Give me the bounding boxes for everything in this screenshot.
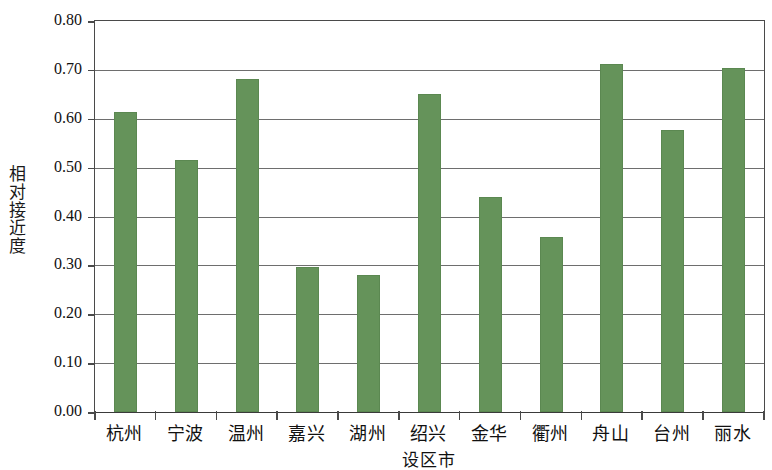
y-axis-tick-label: 0.40 <box>54 207 82 225</box>
x-axis-tick-label: 杭州 <box>94 419 155 449</box>
x-axis-tick-label: 宁波 <box>155 419 216 449</box>
bar <box>479 197 502 412</box>
bar-slot <box>460 21 521 412</box>
x-axis-tick-label: 嘉兴 <box>276 419 337 449</box>
bar-slot <box>521 21 582 412</box>
bar-slot <box>217 21 278 412</box>
y-axis-tick-mark <box>88 119 95 121</box>
y-axis-tick-mark <box>88 70 95 72</box>
bar-slot <box>642 21 703 412</box>
x-axis-tick-label: 舟山 <box>581 419 642 449</box>
bar-slot <box>95 21 156 412</box>
bar-chart: 相对接近度 0.000.100.200.300.400.500.600.700.… <box>0 0 772 470</box>
bar-slot <box>156 21 217 412</box>
y-axis-title: 相对接近度 <box>2 0 30 420</box>
bar <box>661 130 684 412</box>
x-axis-tick-labels: 杭州宁波温州嘉兴湖州绍兴金华衢州舟山台州丽水 <box>94 419 763 449</box>
x-axis-tick-label: 衢州 <box>520 419 581 449</box>
x-axis-tick-label: 金华 <box>459 419 520 449</box>
bar-slot <box>582 21 643 412</box>
bar <box>236 79 259 412</box>
x-axis-tick-label: 湖州 <box>337 419 398 449</box>
bar <box>722 68 745 412</box>
y-axis-tick-mark <box>88 314 95 316</box>
x-axis-tick-label: 温州 <box>216 419 277 449</box>
bar-slot <box>338 21 399 412</box>
x-axis-tick-label: 绍兴 <box>398 419 459 449</box>
y-axis-tick-mark <box>88 21 95 23</box>
x-axis-tick-mark <box>763 411 765 420</box>
bar <box>418 94 441 412</box>
x-axis-tick-label: 台州 <box>641 419 702 449</box>
y-axis-tick-label: 0.20 <box>54 304 82 322</box>
y-axis-tick-labels: 0.000.100.200.300.400.500.600.700.80 <box>28 0 88 420</box>
bars-layer <box>95 21 764 412</box>
x-axis-title: 设区市 <box>94 446 763 470</box>
y-axis-tick-label: 0.30 <box>54 255 82 273</box>
y-axis-tick-mark <box>88 217 95 219</box>
bar <box>357 275 380 412</box>
bar <box>600 64 623 412</box>
y-axis-tick-label: 0.60 <box>54 109 82 127</box>
bar <box>114 112 137 412</box>
plot-area <box>94 20 765 413</box>
x-axis-tick-label: 丽水 <box>702 419 763 449</box>
bar <box>296 267 319 412</box>
y-axis-tick-label: 0.00 <box>54 402 82 420</box>
y-axis-tick-label: 0.50 <box>54 158 82 176</box>
y-axis-tick-mark <box>88 168 95 170</box>
bar-slot <box>277 21 338 412</box>
bar <box>540 237 563 412</box>
y-axis-tick-label: 0.10 <box>54 353 82 371</box>
bar-slot <box>703 21 764 412</box>
y-axis-tick-mark <box>88 363 95 365</box>
y-axis-tick-label: 0.70 <box>54 60 82 78</box>
bar-slot <box>399 21 460 412</box>
y-axis-tick-mark <box>88 265 95 267</box>
bar <box>175 160 198 412</box>
y-axis-tick-label: 0.80 <box>54 11 82 29</box>
y-axis-title-text: 相对接近度 <box>4 165 29 255</box>
